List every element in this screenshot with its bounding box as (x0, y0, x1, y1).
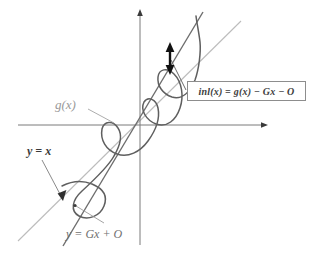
figure-canvas (0, 0, 311, 256)
inl-equation-text: inl(x) = g(x) − Gx − O (198, 86, 294, 97)
curve-g-of-x (62, 16, 200, 218)
leader-line-ygxo (76, 206, 104, 223)
label-y-equals-Gx-plus-O: y = Gx + O (66, 228, 122, 240)
gap-arrow-head-up (166, 42, 175, 52)
line-y-equals-x (18, 21, 241, 241)
x-axis-arrowhead (261, 122, 268, 128)
leader-line-inl (171, 60, 186, 90)
y-axis-arrowhead (137, 9, 143, 16)
leader-endpoint-ygxo (73, 204, 76, 207)
leader-line-yx (42, 160, 61, 196)
leader-line-gx (88, 109, 114, 123)
label-y-equals-x: y = x (27, 145, 51, 157)
label-g-of-x: g(x) (55, 98, 76, 111)
math-figure: g(x) y = x y = Gx + O inl(x) = g(x) − Gx… (0, 0, 311, 256)
inl-equation-box: inl(x) = g(x) − Gx − O (187, 81, 306, 101)
